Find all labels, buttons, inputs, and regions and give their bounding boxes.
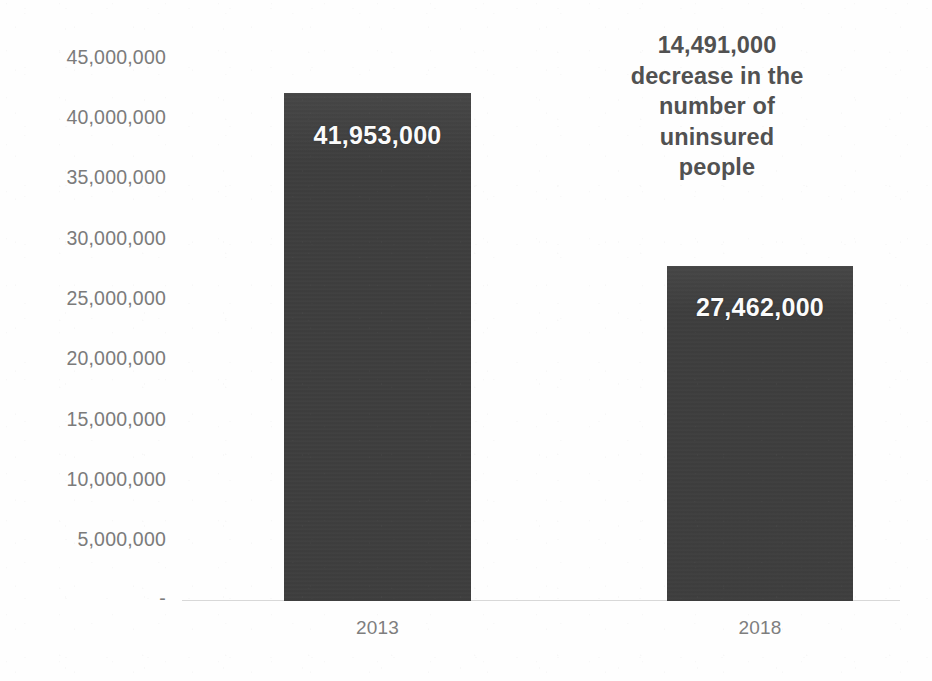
y-axis-tick-20000000: 20,000,000 bbox=[0, 347, 166, 370]
y-axis-tick-15000000: 15,000,000 bbox=[0, 408, 166, 431]
x-axis-tick-2018: 2018 bbox=[667, 617, 853, 639]
x-axis-tick-2013: 2013 bbox=[284, 617, 471, 639]
y-axis-tick-45000000: 45,000,000 bbox=[0, 46, 166, 69]
y-axis-tick-zero: - bbox=[0, 587, 166, 610]
bar-chart: 45,000,000 40,000,000 35,000,000 30,000,… bbox=[0, 0, 932, 681]
bar-2018[interactable]: 27,462,000 bbox=[667, 266, 853, 601]
callout-line-5: people bbox=[578, 152, 856, 183]
y-axis: 45,000,000 40,000,000 35,000,000 30,000,… bbox=[0, 0, 166, 681]
y-axis-tick-5000000: 5,000,000 bbox=[0, 528, 166, 551]
bar-2013-value-label: 41,953,000 bbox=[284, 121, 471, 150]
bar-2013[interactable]: 41,953,000 bbox=[284, 93, 471, 601]
y-axis-tick-35000000: 35,000,000 bbox=[0, 166, 166, 189]
callout-line-3: number of bbox=[578, 91, 856, 122]
y-axis-tick-10000000: 10,000,000 bbox=[0, 468, 166, 491]
y-axis-tick-30000000: 30,000,000 bbox=[0, 227, 166, 250]
y-axis-tick-25000000: 25,000,000 bbox=[0, 287, 166, 310]
callout-line-4: uninsured bbox=[578, 122, 856, 153]
callout-line-2: decrease in the bbox=[578, 61, 856, 92]
decrease-callout: 14,491,000 decrease in the number of uni… bbox=[578, 30, 856, 183]
callout-line-1: 14,491,000 bbox=[578, 30, 856, 61]
y-axis-tick-40000000: 40,000,000 bbox=[0, 106, 166, 129]
bar-2018-value-label: 27,462,000 bbox=[667, 293, 853, 322]
